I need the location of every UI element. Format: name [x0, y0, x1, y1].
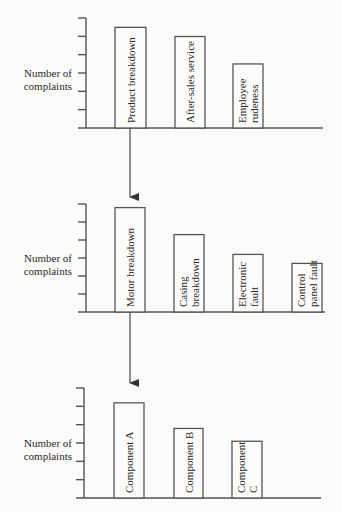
- bar-label: Component A: [123, 432, 135, 493]
- y-axis-label: Number ofcomplaints: [24, 437, 73, 462]
- bar-label: Component B: [183, 432, 195, 493]
- bar-label: Employeerudeness: [236, 78, 260, 123]
- bar-chart-1: Number ofcomplaintsProduct breakdownAfte…: [24, 18, 323, 128]
- bar-label: Motor breakdown: [124, 227, 136, 307]
- y-axis-label: Number ofcomplaints: [24, 67, 73, 92]
- bar-chart-3: Number ofcomplaintsComponent AComponent …: [24, 388, 321, 498]
- bar-label: Product breakdown: [125, 37, 137, 123]
- bar-chart-2: Number ofcomplaintsMotor breakdownCasing…: [24, 204, 325, 312]
- y-axis-label: Number ofcomplaints: [24, 252, 73, 277]
- drill-down-bar-diagram: Number ofcomplaintsProduct breakdownAfte…: [0, 0, 341, 512]
- bar-label: After-sales service: [184, 41, 196, 123]
